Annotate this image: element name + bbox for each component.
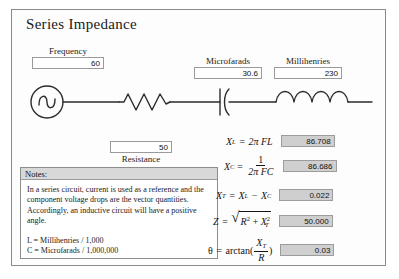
z-plus: + <box>252 216 259 227</box>
millihenries-label: Millihenries <box>274 56 342 66</box>
xl-rhs: 2π FL <box>248 136 272 147</box>
xl-subscript: L <box>232 138 236 145</box>
z-x-subscript: T <box>265 221 269 228</box>
ac-sine-icon <box>39 96 55 107</box>
formula-area: XL = 2π FL 86.708 XC = 1 2π FC 86.686 XT… <box>226 128 386 264</box>
page-title: Series Impedance <box>26 16 137 33</box>
xl-equals: = <box>239 136 246 147</box>
inductor-icon <box>276 92 348 103</box>
formula-row-z: Z = √ R2+X2T 50.000 <box>213 208 333 234</box>
formula-expr-xl: XL = 2π FL <box>226 136 273 147</box>
xt-term1-subscript: L <box>245 192 249 199</box>
notes-header: Notes: <box>21 168 217 180</box>
notes-legend: L = Millihenries / 1,000 C = Microfarads… <box>27 236 211 257</box>
frequency-input[interactable]: 60 <box>32 57 104 69</box>
z-radicand: R2+X2T <box>239 211 271 231</box>
formula-expr-xt: XT = XL − XC <box>216 190 271 201</box>
xt-operator: − <box>251 190 258 201</box>
xt-term2-subscript: C <box>267 192 271 199</box>
resistance-label: Resistance <box>110 154 172 164</box>
theta-close-paren: ) <box>269 245 272 256</box>
notes-box: Notes: In a series circuit, current is u… <box>20 167 218 259</box>
theta-result: 0.03 <box>280 244 334 256</box>
formula-expr-z: Z = √ R2+X2T <box>213 211 271 231</box>
z-r-exponent: 2 <box>247 215 250 222</box>
xc-result: 86.686 <box>283 160 337 172</box>
xc-denominator: 2π FC <box>246 166 275 177</box>
microfarads-input[interactable]: 30.6 <box>194 67 262 79</box>
xt-equals: = <box>229 190 236 201</box>
xc-numerator: 1 <box>256 155 265 166</box>
theta-equals: = <box>216 245 223 256</box>
xc-equals: = <box>236 161 243 172</box>
z-equals: = <box>222 216 229 227</box>
xc-subscript: C <box>230 163 234 170</box>
notes-body: In a series circuit, current is used as … <box>21 180 217 256</box>
xt-subscript: T <box>222 192 226 199</box>
z-symbol: Z <box>213 216 219 227</box>
theta-symbol: θ <box>208 245 213 256</box>
series-impedance-panel: Series Impedance Frequency 60 Microfarad… <box>11 9 386 266</box>
theta-function: arctan( <box>226 245 254 256</box>
theta-numerator-wrap: XT <box>254 238 268 252</box>
xt-result: 0.022 <box>279 189 333 201</box>
notes-legend-capacitance: C = Microfarads / 1,000,000 <box>27 246 211 256</box>
formula-expr-xc: XC = 1 2π FC <box>224 155 277 177</box>
formula-row-xt: XT = XL − XC 0.022 <box>216 182 333 208</box>
resistance-input[interactable]: 50 <box>110 141 172 153</box>
notes-paragraph: In a series circuit, current is used as … <box>27 185 211 227</box>
circuit-schematic <box>24 82 376 130</box>
notes-legend-inductance: L = Millihenries / 1,000 <box>27 236 211 246</box>
frequency-label: Frequency <box>32 46 104 56</box>
theta-numerator-subscript: T <box>262 242 266 249</box>
theta-fraction: XT R <box>254 238 268 263</box>
formula-row-xl: XL = 2π FL 86.708 <box>226 128 335 154</box>
formula-expr-theta: θ = arctan( XT R ) <box>208 238 272 263</box>
z-result: 50.000 <box>279 215 333 227</box>
formula-row-theta: θ = arctan( XT R ) 0.03 <box>208 237 334 263</box>
xc-fraction: 1 2π FC <box>246 155 275 177</box>
theta-denominator: R <box>256 252 266 263</box>
millihenries-input[interactable]: 230 <box>274 67 342 79</box>
microfarads-label: Microfarads <box>194 56 262 66</box>
resistor-icon <box>119 94 170 110</box>
xl-result: 86.708 <box>281 135 335 147</box>
formula-row-xc: XC = 1 2π FC 86.686 <box>224 153 337 179</box>
z-radical: √ R2+X2T <box>231 211 270 231</box>
